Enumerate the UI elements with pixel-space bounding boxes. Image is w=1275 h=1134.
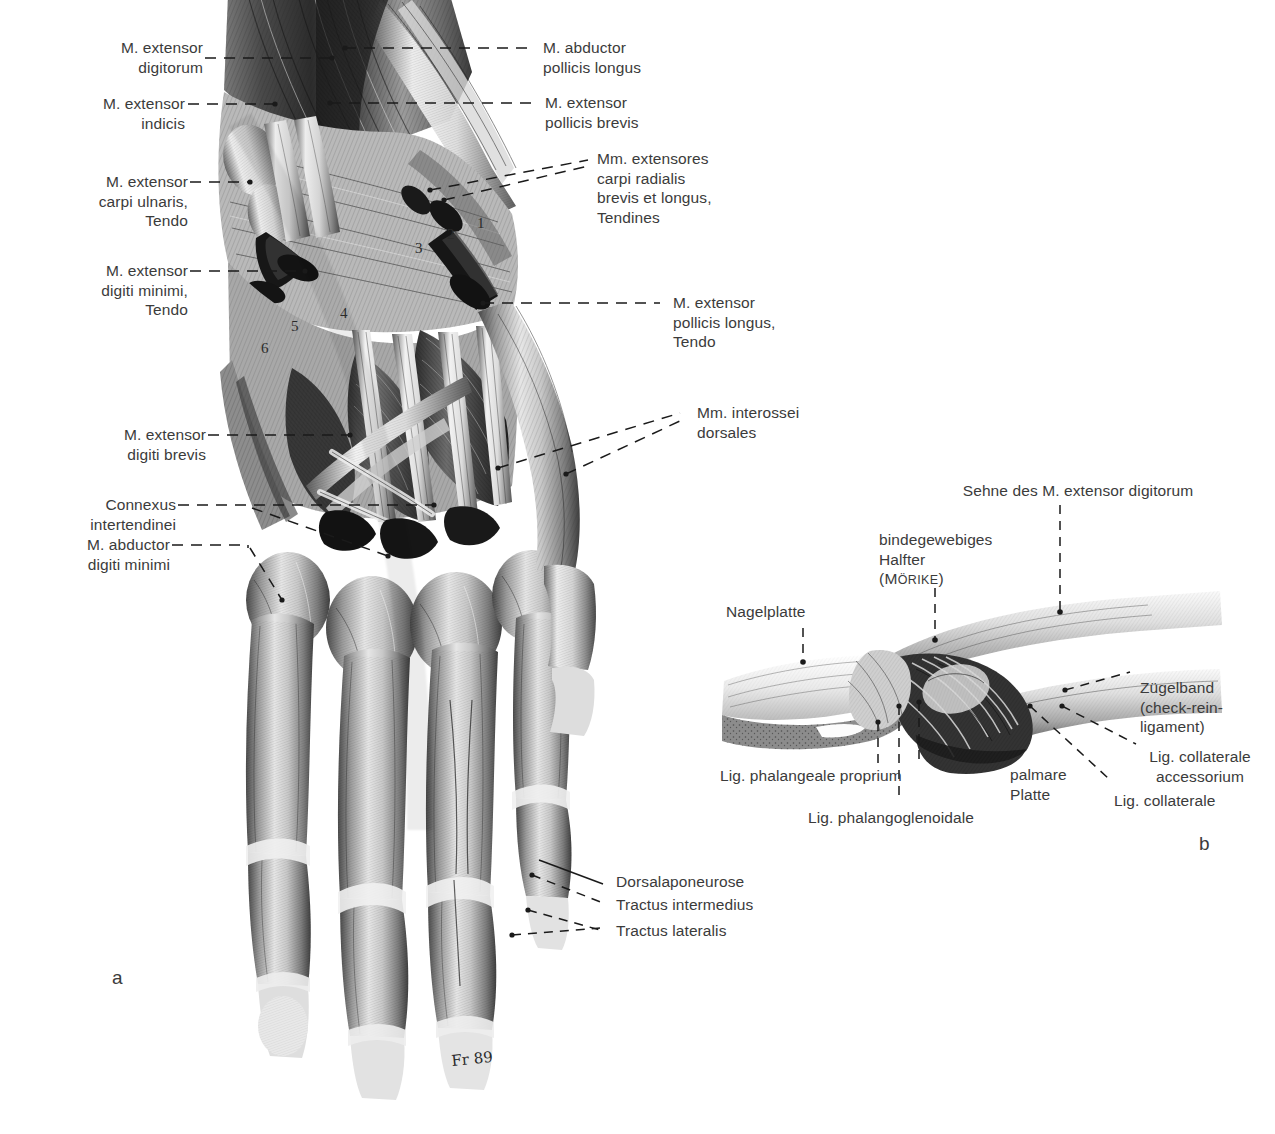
panel-label-a: a	[112, 967, 123, 989]
label-extensor-digiti-brevis: M. extensor digiti brevis	[60, 425, 206, 464]
label-abductor-digiti-minimi: M. abductor digiti minimi	[50, 535, 170, 574]
label-extensores-carpi-radialis: Mm. extensores carpi radialis brevis et …	[597, 149, 797, 227]
label-sehne-extensor-digitorum: Sehne des M. extensor digitorum	[928, 481, 1228, 501]
label-dorsalaponeurose: Dorsalaponeurose	[616, 872, 816, 892]
label-extensor-carpi-ulnaris-tendo: M. extensor carpi ulnaris, Tendo	[60, 172, 188, 231]
label-lig-phalangeale-proprium: Lig. phalangeale proprium	[720, 766, 950, 786]
marker-4: 4	[340, 305, 348, 322]
marker-2: 2	[447, 226, 455, 243]
label-abductor-pollicis-longus: M. abductor pollicis longus	[543, 38, 753, 77]
label-extensor-digitorum: M. extensor digitorum	[60, 38, 203, 77]
label-tractus-lateralis: Tractus lateralis	[616, 921, 816, 941]
panel-label-b: b	[1199, 833, 1210, 855]
marker-1: 1	[477, 215, 485, 232]
label-moerike: (MÖRIKE)	[879, 569, 1059, 591]
label-tractus-intermedius: Tractus intermedius	[616, 895, 826, 915]
label-extensor-pollicis-longus-tendo: M. extensor pollicis longus, Tendo	[673, 293, 853, 352]
label-lig-collaterale: Lig. collaterale	[1114, 791, 1264, 811]
marker-5: 5	[291, 318, 299, 335]
anatomy-plate: Fr 89	[0, 0, 1275, 1134]
label-palmare-platte: palmare Platte	[1010, 765, 1120, 804]
label-extensor-indicis: M. extensor indicis	[60, 94, 185, 133]
label-zuegelband: Zügelband (check-rein- ligament)	[1140, 678, 1270, 737]
label-connexus-intertendinei: Connexus intertendinei	[50, 495, 176, 534]
label-lig-collaterale-accessorium: Lig. collaterale accessorium	[1130, 747, 1270, 786]
label-lig-phalangoglenoidale: Lig. phalangoglenoidale	[808, 808, 1048, 828]
marker-3: 3	[415, 240, 423, 257]
label-interossei-dorsales: Mm. interossei dorsales	[697, 403, 877, 442]
label-bindegewebiges-halfter: bindegewebiges Halfter	[879, 530, 1059, 569]
label-nagelplatte: Nagelplatte	[726, 602, 886, 622]
label-extensor-digiti-minimi-tendo: M. extensor digiti minimi, Tendo	[60, 261, 188, 320]
label-extensor-pollicis-brevis: M. extensor pollicis brevis	[545, 93, 755, 132]
marker-6: 6	[261, 340, 269, 357]
